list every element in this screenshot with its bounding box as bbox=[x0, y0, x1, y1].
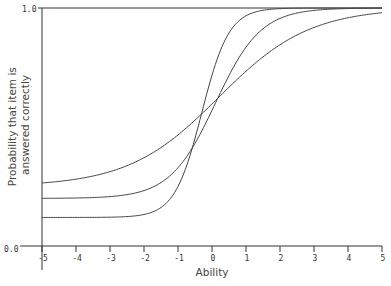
x-tick-label: 2 bbox=[279, 254, 284, 263]
x-tick-label: 0 bbox=[211, 254, 216, 263]
y-tick-top: 1.0 bbox=[22, 5, 37, 14]
y-tick-bottom: 0.0 bbox=[4, 245, 19, 254]
item-characteristic-curves bbox=[42, 8, 382, 217]
x-tick-label: 3 bbox=[313, 254, 318, 263]
icc-curve bbox=[42, 13, 382, 183]
icc-curve bbox=[42, 8, 382, 198]
y-axis-label: Probability that item is answered correc… bbox=[6, 64, 31, 186]
x-tick-label: -2 bbox=[140, 254, 150, 263]
x-tick-label: -1 bbox=[174, 254, 184, 263]
x-axis-label: Ability bbox=[196, 266, 229, 278]
x-tick-label: 1 bbox=[245, 254, 250, 263]
y-label-line-2: answered correctly bbox=[19, 75, 31, 175]
x-tick-label: -4 bbox=[72, 254, 82, 263]
irt-chart: -5-4-3-2-1012345 1.0 0.0 Ability Probabi… bbox=[0, 0, 391, 286]
x-tick-label: 5 bbox=[381, 254, 386, 263]
x-tick-label: 4 bbox=[347, 254, 352, 263]
y-label-line-1: Probability that item is bbox=[6, 67, 18, 186]
axes: -5-4-3-2-1012345 bbox=[20, 8, 386, 270]
x-tick-label: -3 bbox=[106, 254, 116, 263]
x-tick-label: -5 bbox=[38, 254, 48, 263]
icc-curve bbox=[42, 8, 382, 217]
